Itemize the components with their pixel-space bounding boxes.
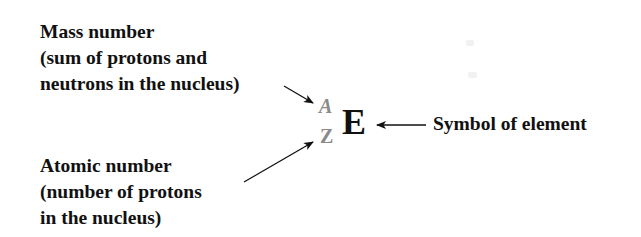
scan-artifact xyxy=(466,40,474,46)
atomic-number-arrow-icon xyxy=(244,142,313,182)
mass-number-arrow-icon xyxy=(284,86,313,103)
scan-artifact xyxy=(468,72,477,78)
arrows-layer xyxy=(0,0,641,237)
